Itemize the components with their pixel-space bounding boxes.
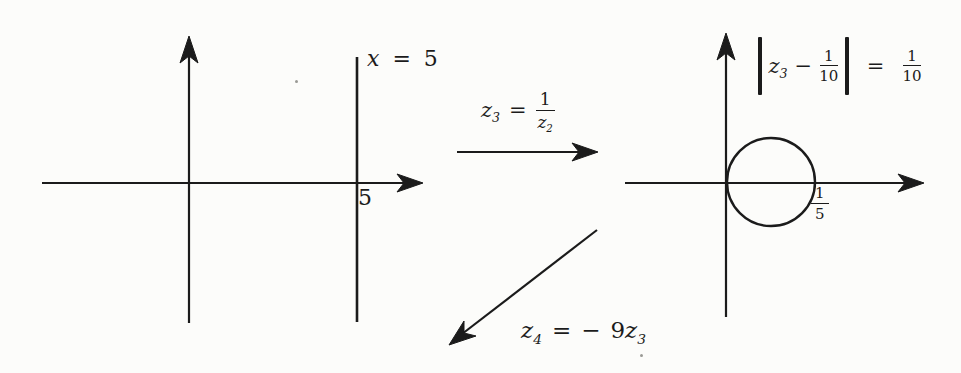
den-subscript: 2 bbox=[546, 123, 552, 134]
rhs-fraction-denominator: 10 bbox=[902, 66, 921, 85]
line-label-variable: x bbox=[367, 48, 379, 70]
scan-speck bbox=[640, 354, 643, 357]
transform-down-lhs: z4 bbox=[521, 319, 542, 342]
tick-fraction-numerator: 1 bbox=[811, 185, 829, 204]
right-plot-x-tick-label: 1 5 bbox=[811, 185, 829, 222]
rhs-base: z bbox=[625, 317, 637, 343]
circle-equation: z3 − 1 10 = 1 10 bbox=[758, 37, 922, 95]
rhs-coefficient: 9 bbox=[610, 317, 625, 343]
transform-down-label: z4 = − 9z3 bbox=[521, 319, 646, 342]
transform-right-equals: = bbox=[509, 100, 527, 121]
lhs-subscript: 3 bbox=[492, 110, 500, 125]
tick-fraction-denominator: 5 bbox=[815, 204, 825, 223]
left-plot-x-tick-label: 5 bbox=[358, 187, 372, 209]
circle-eq-lhs-variable: z3 bbox=[769, 56, 788, 77]
lhs-base: z bbox=[521, 317, 533, 343]
fraction-numerator: 1 bbox=[536, 90, 555, 111]
den-base: z bbox=[537, 112, 546, 132]
figure-canvas: x = 5 5 z3 = 1 z2 z3 − 1 10 = 1 10 bbox=[0, 0, 961, 373]
abs-base: z bbox=[769, 54, 780, 78]
inner-fraction-numerator: 1 bbox=[820, 48, 838, 67]
transform-down-rhs: 9z3 bbox=[610, 319, 646, 342]
transform-right-label: z3 = 1 z2 bbox=[481, 90, 555, 131]
transform-right-lhs: z3 bbox=[481, 100, 500, 121]
abs-bar-left bbox=[758, 37, 762, 95]
lhs-subscript: 4 bbox=[533, 331, 542, 347]
circle-eq-inner-fraction: 1 10 bbox=[819, 48, 838, 85]
circle-eq-rhs-fraction: 1 10 bbox=[902, 48, 921, 85]
scan-speck bbox=[295, 80, 298, 83]
rhs-subscript: 3 bbox=[637, 331, 646, 347]
abs-subscript: 3 bbox=[780, 66, 788, 81]
left-plot-line-label: x = 5 bbox=[367, 48, 438, 70]
fraction-denominator: z2 bbox=[537, 111, 552, 132]
line-label-equals: = bbox=[392, 48, 410, 70]
line-label-value: 5 bbox=[424, 48, 438, 70]
transform-down-equals: = bbox=[552, 319, 571, 342]
rhs-fraction-numerator: 1 bbox=[903, 48, 921, 67]
circle-eq-minus: − bbox=[795, 56, 813, 77]
lhs-base: z bbox=[481, 98, 492, 122]
inner-fraction-denominator: 10 bbox=[819, 66, 838, 85]
transform-arrow-down-arrowhead bbox=[449, 321, 476, 345]
abs-bar-right bbox=[845, 37, 849, 95]
circle-eq-equals: = bbox=[867, 56, 885, 77]
transform-down-minus: − bbox=[581, 319, 600, 342]
transform-right-fraction: 1 z2 bbox=[536, 90, 555, 131]
